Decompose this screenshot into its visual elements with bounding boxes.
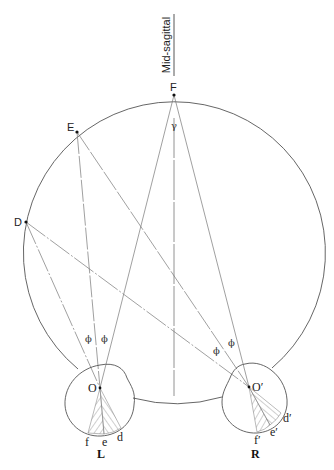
line-E-Oprime	[77, 132, 249, 387]
lower-arc	[133, 397, 222, 404]
point-Oprime	[248, 386, 251, 389]
label-Oprime: O′	[252, 380, 264, 394]
line-F-O	[100, 95, 174, 388]
line-F-Oprime	[174, 95, 249, 387]
point-F	[172, 93, 175, 96]
vieth-muller-diagram: Mid-sagittal F E D γ ϕ ϕ ϕ ϕ O f e d L	[0, 0, 334, 470]
label-L: L	[97, 447, 105, 461]
line-D-Oprime	[26, 222, 249, 387]
label-D: D	[14, 216, 22, 228]
line-D-O	[26, 222, 100, 388]
label-gamma: γ	[171, 120, 177, 131]
label-E: E	[67, 121, 74, 133]
label-phi-left-2: ϕ	[101, 333, 108, 344]
vieth-muller-circle	[23, 102, 325, 369]
right-eye: O′ f′ e′ d′ R	[222, 363, 292, 461]
label-d: d	[117, 430, 123, 444]
point-E	[75, 130, 78, 133]
label-phi-left-1: ϕ	[85, 333, 92, 344]
label-dprime: d′	[283, 411, 292, 425]
mid-sagittal-label-group: Mid-sagittal	[160, 14, 174, 76]
label-R: R	[251, 447, 260, 461]
label-O: O	[88, 381, 97, 395]
point-O	[99, 387, 102, 390]
label-eprime: e′	[270, 425, 278, 439]
label-fprime: f′	[254, 433, 261, 447]
label-phi-right-2: ϕ	[228, 337, 235, 348]
mid-sagittal-label: Mid-sagittal	[160, 17, 172, 73]
left-retina-wedge-e-d	[100, 388, 121, 434]
label-phi-right-1: ϕ	[213, 345, 220, 356]
point-D	[24, 220, 27, 223]
label-f: f	[85, 435, 89, 449]
left-eye: O f e d L	[65, 364, 134, 461]
label-F: F	[170, 81, 177, 93]
line-E-O	[77, 132, 100, 388]
